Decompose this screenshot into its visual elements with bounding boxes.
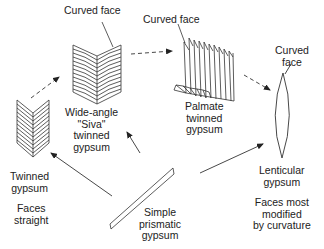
arrow-siva-to-palmate <box>131 51 172 54</box>
lenticular-note-line-1: Faces most <box>253 197 311 209</box>
lenticular-note-line-3: by curvature <box>253 220 311 232</box>
lenticular-callout-label: Curved face <box>275 45 309 68</box>
palmate-gypsum-crystal-icon <box>174 24 234 101</box>
twinned-note-line-1: Faces <box>14 203 48 215</box>
arrow-palmate-to-lenticular <box>244 75 270 90</box>
siva-label: Wide-angle "Siva" twinned gypsum <box>65 107 118 153</box>
palmate-callout-label: Curved face <box>143 14 200 26</box>
twinned-label: Twinned gypsum <box>10 171 49 194</box>
siva-label-line-1: Wide-angle <box>65 107 118 119</box>
lenticular-label: Lenticular gypsum <box>259 165 305 188</box>
siva-callout-label: Curved face <box>64 5 121 17</box>
lenticular-gypsum-crystal-icon <box>275 64 291 158</box>
arrow-twinned-to-siva <box>31 77 59 98</box>
palmate-label-line-1: Palmate <box>185 101 224 113</box>
arrow-prismatic-to-lenticular <box>200 144 263 173</box>
twinned-gypsum-crystal-icon <box>17 100 49 157</box>
lenticular-callout-line-2: face <box>275 57 309 69</box>
prismatic-label: Simple prismatic gypsum <box>139 207 181 242</box>
siva-label-line-3: twinned <box>65 130 118 142</box>
palmate-label: Palmate twinned gypsum <box>185 101 224 136</box>
twinned-label-line-2: gypsum <box>10 183 49 195</box>
arrow-prismatic-to-twinned <box>51 153 112 196</box>
prismatic-label-line-1: Simple <box>139 207 181 219</box>
lenticular-label-line-1: Lenticular <box>259 165 305 177</box>
twinned-label-line-1: Twinned <box>10 171 49 183</box>
prismatic-label-line-3: gypsum <box>139 230 181 242</box>
lenticular-label-line-2: gypsum <box>259 177 305 189</box>
siva-label-line-4: gypsum <box>65 142 118 154</box>
siva-gypsum-crystal-icon <box>73 22 121 104</box>
lenticular-callout-line-1: Curved <box>275 45 309 57</box>
arrow-prismatic-to-siva <box>127 132 140 153</box>
palmate-label-line-3: gypsum <box>185 124 224 136</box>
twinned-note: Faces straight <box>14 203 48 226</box>
twinned-note-line-2: straight <box>14 215 48 227</box>
lenticular-note: Faces most modified by curvature <box>253 197 311 232</box>
